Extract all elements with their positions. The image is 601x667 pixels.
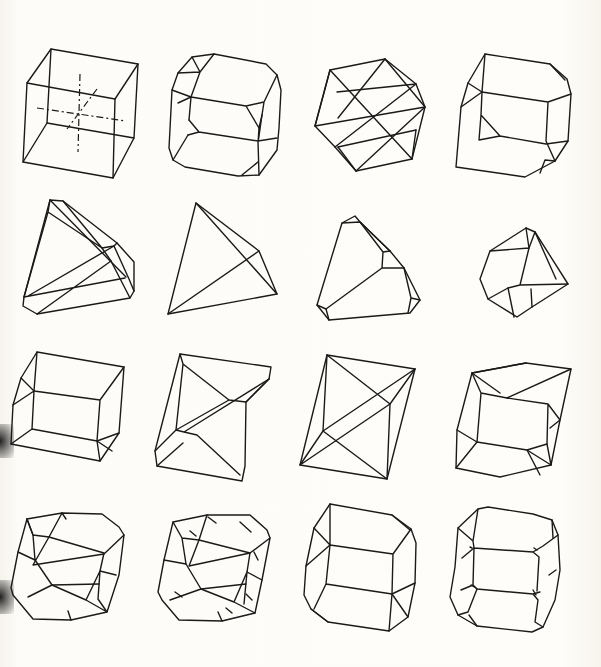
crystal-r1c4 (456, 54, 571, 177)
crystal-r2c2-tetrahedron (168, 203, 277, 314)
crystal-r3c2 (155, 354, 271, 481)
scanned-page (0, 0, 601, 667)
crystal-r4c1 (11, 513, 124, 620)
crystal-r2c1 (23, 200, 134, 314)
crystal-r1c1-cube-with-axes (23, 49, 138, 178)
crystal-r3c1 (11, 352, 124, 461)
crystal-figure-grid (0, 0, 601, 667)
crystal-r1c2 (169, 54, 281, 176)
crystal-r3c3-rhombohedron (300, 355, 415, 479)
crystal-r1c3-cuboctahedron (315, 59, 425, 171)
crystal-r4c3 (304, 504, 416, 631)
crystal-r4c4 (450, 507, 560, 632)
crystal-axes (37, 74, 126, 152)
crystal-r2c4 (480, 228, 568, 317)
crystal-r2c3 (317, 216, 420, 320)
crystal-r4c2 (158, 515, 270, 621)
crystal-r3c4 (456, 363, 571, 477)
